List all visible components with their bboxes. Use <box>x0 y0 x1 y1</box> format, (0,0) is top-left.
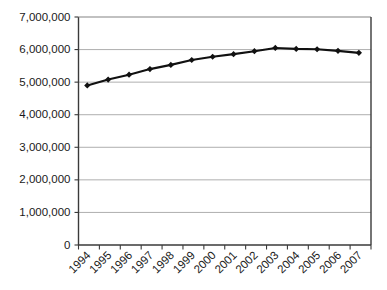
y-tick-label: 0 <box>64 239 70 251</box>
line-chart-figure: 01,000,0002,000,0003,000,0004,000,0005,0… <box>0 0 387 290</box>
y-tick-label: 1,000,000 <box>19 206 70 218</box>
y-tick-label: 3,000,000 <box>19 141 70 153</box>
chart-canvas: 01,000,0002,000,0003,000,0004,000,0005,0… <box>0 0 387 290</box>
y-tick-label: 2,000,000 <box>19 173 70 185</box>
y-tick-label: 4,000,000 <box>19 108 70 120</box>
y-tick-label: 6,000,000 <box>19 43 70 55</box>
y-tick-label: 7,000,000 <box>19 11 70 23</box>
y-tick-label: 5,000,000 <box>19 76 70 88</box>
